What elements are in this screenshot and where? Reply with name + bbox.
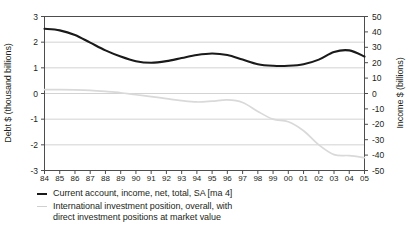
legend-label-investment-position: International investment position, overa… <box>53 201 232 224</box>
legend-label-line1: Current account, income, net, total, SA … <box>53 188 232 198</box>
legend-label-current-account: Current account, income, net, total, SA … <box>53 188 232 200</box>
series-line-current-account <box>45 29 365 66</box>
legend-line-marker-light <box>36 201 49 212</box>
legend-label-line2: direct investment positions at market va… <box>53 212 232 224</box>
series-line-investment-position <box>45 90 365 158</box>
chart-figure: Debt $ (thousand billions) Income $ (bil… <box>0 0 408 234</box>
chart-legend: Current account, income, net, total, SA … <box>36 188 406 225</box>
legend-label-line1: International investment position, overa… <box>53 201 232 211</box>
legend-item-current-account: Current account, income, net, total, SA … <box>36 188 406 200</box>
legend-item-investment-position: International investment position, overa… <box>36 201 406 224</box>
legend-line-marker-dark <box>36 188 49 199</box>
